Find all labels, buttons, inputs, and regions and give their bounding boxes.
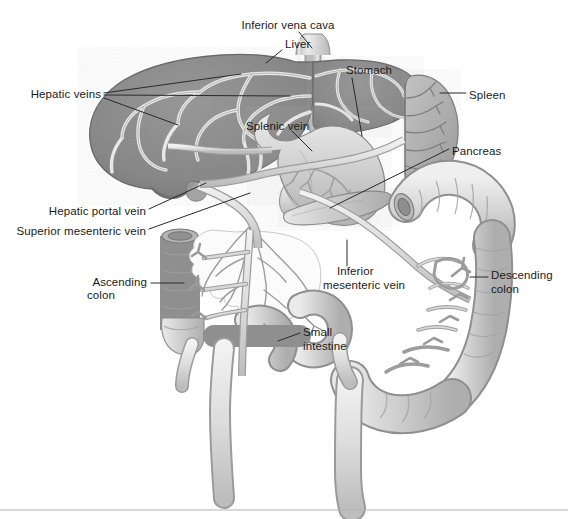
label-superior-mesenteric-vein: Superior mesenteric vein <box>1 225 146 238</box>
label-descending-colon-line2: colon <box>491 283 519 296</box>
label-inferior-vena-cava: Inferior vena cava <box>228 19 348 32</box>
label-hepatic-portal-vein: Hepatic portal vein <box>1 205 146 218</box>
label-pancreas: Pancreas <box>452 145 501 158</box>
sigmoid-colon-and-rectum <box>348 380 452 508</box>
label-liver: Liver <box>285 38 310 51</box>
label-inferior-mesenteric-vein-line1: Inferior <box>337 265 374 278</box>
label-inferior-mesenteric-vein-line2: mesenteric vein <box>323 279 405 292</box>
label-ascending-colon-line2: colon <box>87 289 115 302</box>
label-splenic-vein: Splenic vein <box>246 120 309 133</box>
label-descending-colon-line1: Descending <box>491 269 553 282</box>
anatomy-illustration <box>0 0 568 519</box>
label-small-intestine-line2: intestine <box>303 340 347 353</box>
anatomy-figure: Inferior vena cava Liver Hepatic veins S… <box>0 0 568 519</box>
label-small-intestine-line1: Small <box>303 326 332 339</box>
label-stomach: Stomach <box>346 64 392 77</box>
label-spleen: Spleen <box>469 89 505 102</box>
label-ascending-colon-line1: Ascending <box>47 276 147 289</box>
label-hepatic-veins: Hepatic veins <box>1 88 101 101</box>
